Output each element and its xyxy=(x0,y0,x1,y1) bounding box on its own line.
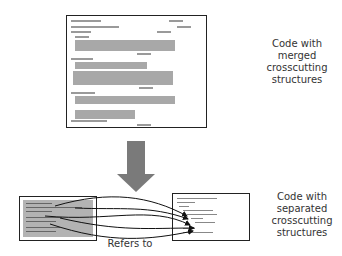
caption-line: separated xyxy=(267,203,337,215)
separated-caption: Code with separated crosscutting structu… xyxy=(267,191,337,239)
caption-line: structures xyxy=(267,227,337,239)
caption-line: Code with xyxy=(267,191,337,203)
caption-line: crosscutting xyxy=(267,215,337,227)
refers-to-label: Refers to xyxy=(100,238,160,250)
